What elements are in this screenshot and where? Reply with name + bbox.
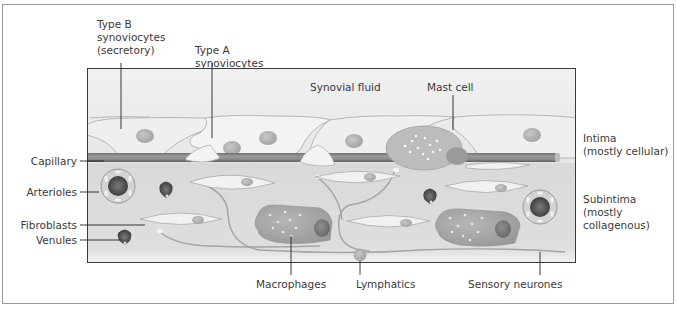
label-capillary: Capillary: [31, 155, 77, 168]
label-subintima: Subintima (mostly collagenous): [583, 193, 650, 232]
label-type-a-synoviocytes: Type A synoviocytes: [195, 44, 263, 70]
label-macrophages: Macrophages: [256, 278, 326, 291]
label-arterioles: Arterioles: [26, 186, 77, 199]
lymphatic-vessel: [354, 249, 366, 261]
label-type-b-synoviocytes: Type B synoviocytes (secretory): [97, 18, 165, 57]
label-intima: Intima (mostly cellular): [583, 132, 668, 158]
label-synovial-fluid: Synovial fluid: [310, 81, 381, 94]
label-venules: Venules: [36, 234, 77, 247]
label-lymphatics: Lymphatics: [356, 278, 415, 291]
label-mast-cell: Mast cell: [427, 81, 474, 94]
label-sensory-neurones: Sensory neurones: [468, 278, 562, 291]
label-fibroblasts: Fibroblasts: [21, 219, 77, 232]
